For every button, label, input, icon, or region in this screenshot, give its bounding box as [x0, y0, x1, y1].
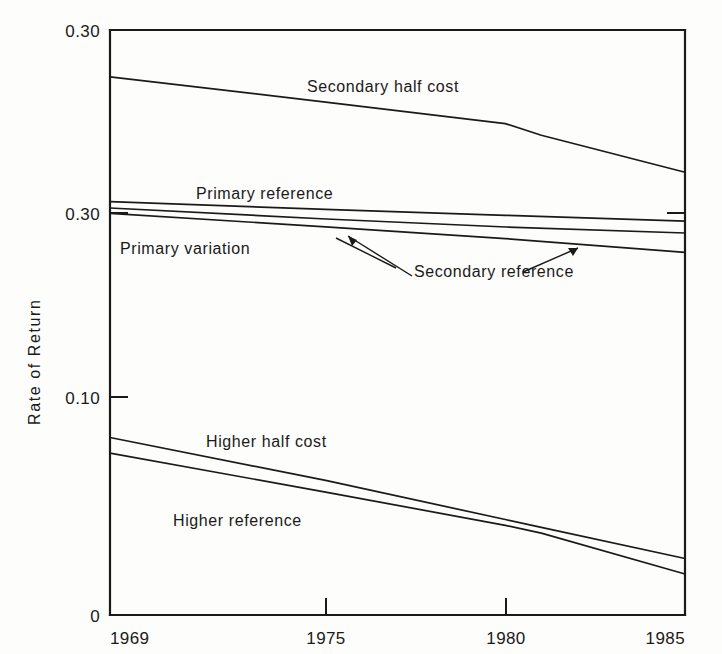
y-axis-title: Rate of Return — [26, 299, 43, 425]
x-tick-label-1980: 1980 — [486, 629, 525, 648]
series-label-primary-variation: Primary variation — [120, 240, 250, 257]
y-tick-label-low: 0.10 — [65, 389, 100, 408]
series-label-secondary-reference: Secondary reference — [414, 263, 574, 280]
line-chart: 0.30 0.30 0.10 0 1969 1975 1980 1985 Rat… — [0, 0, 722, 654]
series-label-primary-reference: Primary reference — [196, 185, 333, 202]
leader-primary-variation — [336, 238, 396, 268]
y-tick-label-mid: 0.30 — [65, 205, 100, 224]
series-label-higher-reference: Higher reference — [173, 512, 302, 529]
series-line-higher-half-cost — [110, 438, 685, 559]
y-tick-label-zero: 0 — [90, 607, 100, 626]
series-label-higher-half-cost: Higher half cost — [206, 433, 327, 450]
y-tick-label-top: 0.30 — [65, 22, 100, 41]
x-tick-label-1985: 1985 — [646, 629, 685, 648]
leader-secondary-reference-left — [348, 236, 412, 276]
chart-figure: 0.30 0.30 0.10 0 1969 1975 1980 1985 Rat… — [0, 0, 722, 654]
series-label-secondary-half-cost: Secondary half cost — [307, 78, 459, 95]
x-tick-label-1969: 1969 — [110, 629, 149, 648]
x-tick-label-1975: 1975 — [306, 629, 345, 648]
